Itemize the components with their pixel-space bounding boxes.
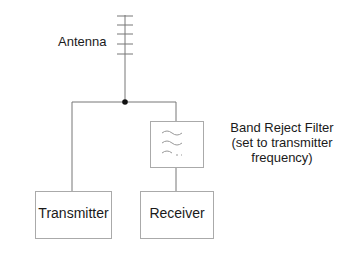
antenna-icon xyxy=(117,15,133,102)
receiver-label: Receiver xyxy=(140,205,214,221)
transmitter-label: Transmitter xyxy=(35,205,112,221)
filter-label-line-2: (set to transmitter xyxy=(218,135,346,150)
antenna-label: Antenna xyxy=(58,34,106,49)
filter-label-line-3: frequency) xyxy=(218,150,346,165)
filter-label-line-1: Band Reject Filter xyxy=(218,120,346,135)
junction-node-icon xyxy=(122,99,128,105)
filter-label: Band Reject Filter (set to transmitter f… xyxy=(218,120,346,165)
